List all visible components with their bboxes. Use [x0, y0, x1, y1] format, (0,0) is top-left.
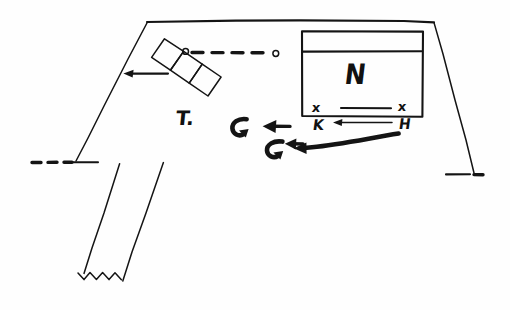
rotated-box-2 — [170, 51, 202, 83]
corridor-edge-left — [84, 164, 120, 274]
hook-arrow-lower — [267, 141, 283, 159]
building-label-n: N — [343, 61, 366, 89]
rotated-box-group — [152, 39, 222, 96]
sweep-curved-arrow — [294, 134, 399, 154]
lower-horizontal-arrow — [333, 119, 392, 126]
right-boundary-line — [434, 23, 474, 173]
mark-top-left-x: x — [311, 101, 321, 114]
mark-bottom-right-h: H — [398, 117, 412, 132]
mark-bottom-left-k: K — [312, 118, 325, 133]
sketch-canvas: N T. x x K H — [0, 0, 510, 310]
mark-top-right-x: x — [397, 100, 407, 113]
corridor-edge-right — [123, 163, 164, 281]
arrow-upper-middle — [263, 120, 290, 133]
top-boundary-line — [147, 20, 434, 22]
rotated-box-3 — [189, 64, 221, 96]
arrow-to-left-boundary — [123, 70, 168, 78]
hook-arrow-upper — [232, 119, 248, 138]
connector-node-right-circle — [273, 51, 279, 57]
rotated-box-1 — [152, 39, 184, 70]
left-boundary-line — [76, 22, 148, 161]
sketch-drawing-surface — [0, 0, 510, 310]
tree-label-t: T. — [175, 108, 195, 128]
